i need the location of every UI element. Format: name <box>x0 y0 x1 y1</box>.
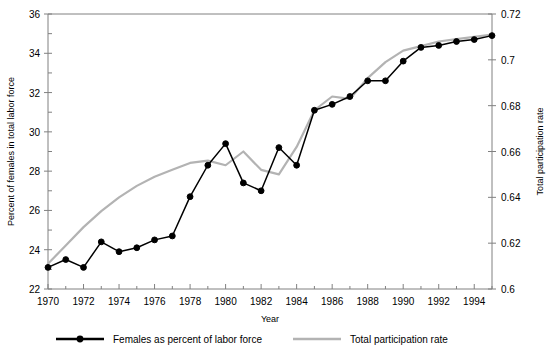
y-ticklabel-right: 0.64 <box>501 192 521 203</box>
line-chart-canvas: 22242628303234360.60.620.640.660.680.70.… <box>0 0 556 353</box>
data-point-marker <box>205 162 211 168</box>
data-point-marker <box>418 44 424 50</box>
data-point-marker <box>98 239 104 245</box>
data-point-marker <box>169 233 175 239</box>
y-ticklabel-left: 24 <box>29 245 41 256</box>
data-point-marker <box>400 58 406 64</box>
data-point-marker <box>347 94 353 100</box>
x-ticklabel: 1988 <box>357 296 380 307</box>
legend-label-females: Females as percent of labor force <box>113 334 262 345</box>
data-point-marker <box>134 245 140 251</box>
data-point-marker <box>365 78 371 84</box>
x-ticklabel: 1990 <box>392 296 415 307</box>
data-point-marker <box>81 264 87 270</box>
data-point-marker <box>329 101 335 107</box>
x-ticklabel: 1980 <box>214 296 237 307</box>
x-ticklabel: 1986 <box>321 296 344 307</box>
y-ticklabel-left: 30 <box>29 127 41 138</box>
legend-layer: Females as percent of labor forceTotal p… <box>56 334 448 345</box>
data-point-marker <box>276 145 282 151</box>
data-point-marker <box>223 141 229 147</box>
x-ticklabel: 1984 <box>286 296 309 307</box>
x-ticklabel: 1992 <box>428 296 451 307</box>
x-axis-title: Year <box>261 314 279 324</box>
data-point-marker <box>383 78 389 84</box>
data-point-marker <box>258 188 264 194</box>
y-ticklabel-left: 26 <box>29 205 41 216</box>
y-ticklabel-left: 28 <box>29 166 41 177</box>
x-ticklabel: 1972 <box>72 296 95 307</box>
data-point-marker <box>436 43 442 49</box>
y-ticklabel-right: 0.66 <box>501 147 521 158</box>
x-ticklabel: 1978 <box>179 296 202 307</box>
x-ticklabel: 1994 <box>463 296 486 307</box>
y-axis-title-left: Percent of females in total labor force <box>6 77 16 226</box>
chart-figure: 22242628303234360.60.620.640.660.680.70.… <box>0 0 556 353</box>
data-point-marker <box>152 237 158 243</box>
x-ticklabel: 1976 <box>143 296 166 307</box>
data-point-marker <box>312 107 318 113</box>
y-ticklabel-left: 36 <box>29 9 41 20</box>
y-ticklabel-left: 34 <box>29 48 41 59</box>
data-point-marker <box>240 180 246 186</box>
data-point-marker <box>471 37 477 43</box>
x-ticklabel: 1974 <box>108 296 131 307</box>
data-point-marker <box>45 264 51 270</box>
data-point-marker <box>116 249 122 255</box>
y-ticklabel-right: 0.6 <box>501 284 515 295</box>
x-ticklabel: 1970 <box>37 296 60 307</box>
y-ticklabel-left: 32 <box>29 88 41 99</box>
y-ticklabel-right: 0.62 <box>501 238 521 249</box>
y-ticklabel-right: 0.68 <box>501 101 521 112</box>
legend-marker-females <box>77 336 84 343</box>
x-ticklabel: 1982 <box>250 296 273 307</box>
legend-label-participation: Total participation rate <box>350 334 448 345</box>
data-point-marker <box>187 194 193 200</box>
data-point-marker <box>63 257 69 263</box>
y-ticklabel-left: 22 <box>29 284 41 295</box>
data-point-marker <box>294 162 300 168</box>
data-point-marker <box>489 33 495 39</box>
y-axis-title-right: Total participation rate <box>535 107 545 195</box>
y-ticklabel-right: 0.7 <box>501 55 515 66</box>
data-point-marker <box>454 39 460 45</box>
y-ticklabel-right: 0.72 <box>501 9 521 20</box>
